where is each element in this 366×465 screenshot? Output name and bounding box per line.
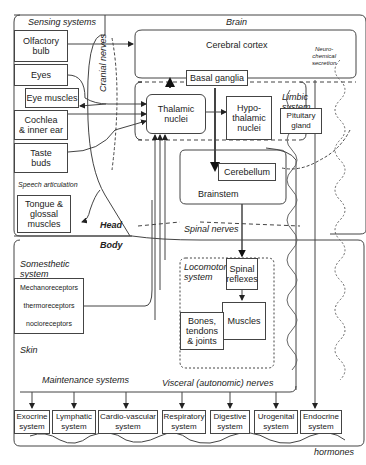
somesthetic-system-label: Somesthetic system <box>20 259 70 279</box>
respiratory-system-box: Respiratory system <box>162 410 206 434</box>
nocioreceptors-label: nocioreceptors <box>26 319 72 329</box>
spinal-reflexes-box: Spinal reflexes <box>226 258 258 290</box>
receptors-box: Mechanoreceptors thermoreceptors nociore… <box>14 278 84 334</box>
locomotor-system-label: Locomotor system <box>184 262 227 282</box>
cranial-nerves-label: Cranial nerves <box>98 34 108 92</box>
mechanoreceptors-label: Mechanoreceptors <box>20 283 78 293</box>
hormones-label: hormones <box>314 447 354 457</box>
digestive-system-box: Digestive system <box>210 410 250 434</box>
body-label: Body <box>100 240 123 250</box>
visceral-nerves-label: Visceral (autonomic) nerves <box>162 378 273 388</box>
eye-muscles-box: Eye muscles <box>25 88 79 108</box>
brainstem-label: Brainstem <box>198 189 239 199</box>
sensing-systems-label: Sensing systems <box>28 17 96 27</box>
cerebellum-box: Cerebellum <box>218 163 276 181</box>
taste-buds-box: Taste buds <box>14 143 68 173</box>
head-label: Head <box>100 220 122 230</box>
bones-tendons-joints-box: Bones, tendons & joints <box>180 312 224 350</box>
cochlea-box: Cochlea & inner ear <box>14 110 68 140</box>
hypothalamic-nuclei-box: Hypo- thalamic nuclei <box>226 96 272 140</box>
spinal-nerves-label: Spinal nerves <box>184 224 239 234</box>
maintenance-systems-label: Maintenance systems <box>42 375 129 385</box>
exocrine-system-box: Exocrine system <box>14 410 50 434</box>
thermoreceptors-label: thermoreceptors <box>24 301 75 311</box>
cerebral-cortex-label: Cerebral cortex <box>206 40 268 50</box>
muscles-box: Muscles <box>222 302 266 340</box>
thalamic-nuclei-box: Thalamic nuclei <box>146 94 206 134</box>
brain-label: Brain <box>226 17 247 27</box>
urogenital-system-box: Urogenital system <box>254 410 298 434</box>
pituitary-gland-box: Pituitary gland <box>280 108 322 134</box>
olfactory-bulb-box: Olfactory bulb <box>14 30 68 62</box>
eyes-box: Eyes <box>14 64 68 86</box>
tongue-box: Tongue & glossal muscles <box>17 195 71 233</box>
skin-label: Skin <box>20 345 38 355</box>
neurochemical-secretion-label: Neuro- chemical secretion <box>312 46 336 67</box>
speech-articulation-label: Speech articulation <box>18 180 78 190</box>
endocrine-system-box: Endocrine system <box>300 410 342 434</box>
cardiovascular-system-box: Cardio-vascular system <box>98 410 158 434</box>
lymphatic-system-box: Lymphatic system <box>52 410 96 434</box>
basal-ganglia-box: Basal ganglia <box>186 70 248 86</box>
